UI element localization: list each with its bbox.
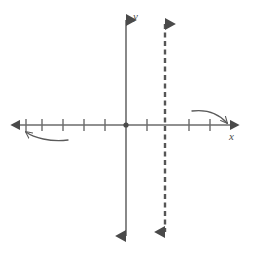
- x-axis-label: x: [228, 130, 234, 142]
- origin-dot: [123, 122, 128, 127]
- left-branch-curved-arrow: [26, 132, 68, 141]
- graph-figure: y x: [0, 0, 256, 255]
- coordinate-plane-svg: y x: [0, 0, 256, 255]
- y-axis-label: y: [132, 10, 138, 22]
